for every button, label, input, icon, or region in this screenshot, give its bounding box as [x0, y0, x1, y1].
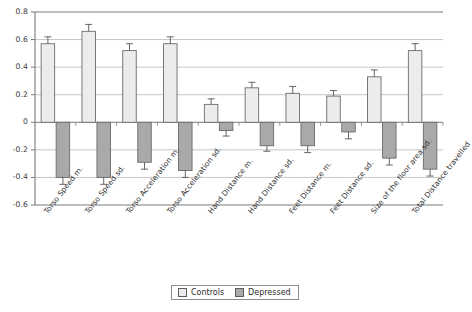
chart-legend: Controls Depressed: [171, 285, 299, 300]
legend-swatch-depressed-icon: [235, 288, 244, 297]
y-axis-tick-label: 0: [2, 117, 28, 126]
legend-label-controls: Controls: [191, 288, 224, 297]
y-axis-tick-label: -0.2: [2, 145, 28, 154]
bar-depressed: [138, 122, 152, 162]
bar-depressed: [219, 122, 233, 130]
bar-depressed: [179, 122, 193, 170]
bar-controls: [41, 44, 55, 123]
bar-controls: [245, 88, 259, 122]
bar-controls: [286, 93, 300, 122]
legend-item-controls: Controls: [178, 288, 224, 297]
bar-depressed: [97, 122, 111, 177]
y-axis-tick-label: 0.4: [2, 62, 28, 71]
legend-label-depressed: Depressed: [248, 288, 291, 297]
bar-controls: [123, 51, 137, 123]
legend-item-depressed: Depressed: [235, 288, 291, 297]
bar-depressed: [260, 122, 274, 145]
legend-swatch-controls-icon: [178, 288, 187, 297]
bar-depressed: [383, 122, 397, 158]
y-axis-tick-label: 0.6: [2, 35, 28, 44]
y-axis-tick-label: -0.6: [2, 200, 28, 209]
bar-controls: [82, 31, 96, 122]
y-axis-tick-label: 0.8: [2, 7, 28, 16]
bar-controls: [164, 44, 178, 123]
bar-controls: [408, 51, 422, 123]
bar-depressed: [56, 122, 70, 177]
bar-depressed: [301, 122, 315, 145]
bar-depressed: [342, 122, 356, 132]
bar-controls: [204, 104, 218, 122]
bar-controls: [368, 77, 382, 122]
bar-controls: [327, 96, 341, 122]
y-axis-tick-label: 0.2: [2, 90, 28, 99]
y-axis-tick-label: -0.4: [2, 172, 28, 181]
